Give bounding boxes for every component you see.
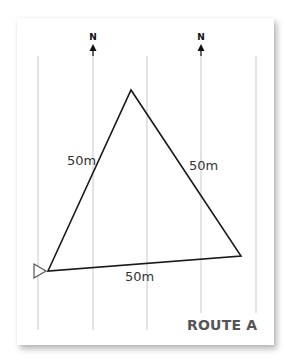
start-marker-icon: [34, 264, 46, 278]
route-diagram: [0, 0, 287, 362]
route-path: [48, 90, 241, 271]
route-title: ROUTE A: [187, 317, 257, 333]
distance-label-right-leg: 50m: [189, 159, 218, 172]
north-label: N: [197, 33, 205, 42]
north-arrow-icon: [198, 44, 205, 56]
distance-label-left-leg: 50m: [67, 154, 96, 167]
grid-lines: [38, 46, 256, 330]
north-label: N: [89, 33, 97, 42]
distance-label-base: 50m: [125, 270, 154, 283]
north-arrow-icon: [90, 44, 97, 56]
